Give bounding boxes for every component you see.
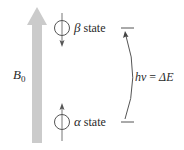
- alpha-state-label: α state: [74, 114, 106, 129]
- transition-arrow-icon: [123, 31, 133, 119]
- magnetic-field-arrow: [27, 7, 47, 143]
- field-label: B0: [13, 67, 26, 84]
- nmr-energy-diagram: B0 β state α state hν = ΔE: [0, 0, 184, 150]
- beta-state-label: β state: [73, 20, 105, 35]
- field-arrow-head: [27, 7, 47, 143]
- beta-spin-icon: [55, 13, 70, 47]
- transition-equation: hν = ΔE: [135, 70, 174, 84]
- alpha-spin-icon: [55, 103, 70, 141]
